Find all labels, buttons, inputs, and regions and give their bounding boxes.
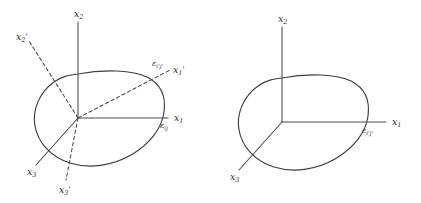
diagram-canvas bbox=[0, 0, 421, 203]
panel-right bbox=[238, 27, 386, 170]
left-x3-axis-label: x3 bbox=[27, 167, 37, 178]
left-strain-eps-i-prime-j-prime-label: εi'j' bbox=[152, 60, 163, 69]
right-x3-axis-label: x3 bbox=[230, 172, 240, 183]
left-x3-prime-axis-line bbox=[66, 118, 78, 180]
panel-left bbox=[29, 22, 170, 180]
left-strain-eps-ij-label: εij bbox=[160, 122, 168, 131]
figure-container: x1 x2 x3 x1' x2' x3' εij εi'j' x1 x2 x3 … bbox=[0, 0, 421, 203]
right-x2-axis-label: x2 bbox=[278, 14, 288, 25]
left-x1-axis-label: x1 bbox=[174, 113, 184, 124]
left-x2-prime-axis-label: x2' bbox=[16, 32, 28, 43]
right-x1-axis-label: x1 bbox=[392, 117, 402, 128]
left-x1-prime-axis-label: x1' bbox=[173, 65, 185, 76]
right-strain-eps-i-prime-j-prime-label: εi'j' bbox=[362, 127, 373, 136]
left-x3-prime-axis-label: x3' bbox=[59, 185, 71, 196]
left-x3-axis-line bbox=[36, 118, 78, 165]
left-x1-prime-axis-line bbox=[78, 70, 170, 118]
left-x2-axis-label: x2 bbox=[74, 9, 84, 20]
